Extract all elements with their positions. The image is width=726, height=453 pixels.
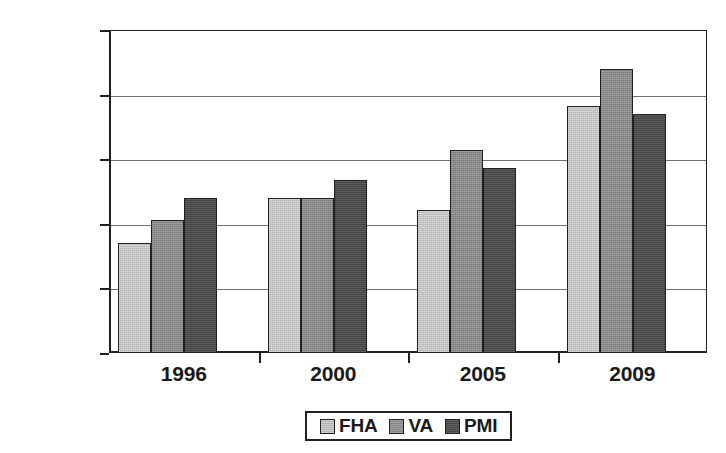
bar-va-1996	[151, 220, 184, 353]
x-axis-tick-label-1996: 1996	[109, 362, 259, 386]
bar-pmi-1996	[184, 198, 217, 353]
legend-item-fha: FHA	[320, 415, 377, 437]
legend-swatch-pmi	[445, 419, 460, 434]
bar-fha-2000	[268, 198, 301, 353]
bar-pmi-2009	[633, 114, 666, 353]
bar-fha-1996	[118, 243, 151, 353]
x-axis-tick-label-2005: 2005	[408, 362, 558, 386]
y-axis-tick-mark	[100, 159, 109, 161]
bar-fha-2005	[417, 210, 450, 353]
bar-pmi-2005	[483, 168, 516, 353]
bars-layer	[109, 30, 707, 353]
legend-item-pmi: PMI	[445, 415, 497, 437]
bar-fha-2009	[567, 106, 600, 353]
y-axis-tick-mark	[100, 353, 109, 355]
legend-swatch-fha	[320, 419, 335, 434]
legend-label: FHA	[339, 415, 377, 437]
legend-item-va: VA	[389, 415, 433, 437]
bar-va-2005	[450, 150, 483, 353]
y-axis-tick-mark	[100, 224, 109, 226]
legend-swatch-va	[389, 419, 404, 434]
bar-chart-figure: $0$50,000$100,000$150,000$200,000$250,00…	[0, 0, 726, 453]
bar-pmi-2000	[334, 180, 367, 353]
chart-legend: FHAVAPMI	[305, 411, 512, 441]
bar-va-2009	[600, 69, 633, 353]
legend-label: PMI	[464, 415, 497, 437]
x-axis-tick-label-2009: 2009	[558, 362, 708, 386]
x-axis-tick-label-2000: 2000	[259, 362, 409, 386]
y-axis-tick-mark	[100, 288, 109, 290]
y-axis-tick-mark	[100, 95, 109, 97]
legend-label: VA	[408, 415, 433, 437]
bar-va-2000	[301, 198, 334, 353]
y-axis-tick-mark	[100, 30, 109, 32]
